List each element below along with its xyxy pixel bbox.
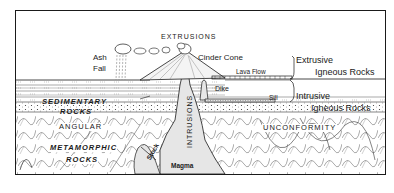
metamorphic-label-1: METAMORPHIC [50,144,117,152]
ash-fall-icon [116,55,126,80]
unconformity-label: UNCONFORMITY [262,124,337,132]
sedimentary-label-2: ROCKS [60,108,92,116]
ash-cloud-icon [115,44,170,54]
lava-flow-label: Lava Flow [236,69,266,76]
eruption-cloud-icon [177,43,191,54]
metamorphic-label-2: ROCKS [66,156,98,164]
sill-label: Sill [269,95,278,102]
ash-fall-label-2: Fall [93,65,106,73]
extrusions-label: EXTRUSIONS [161,33,217,40]
intrusive-label-2: Igneous Rocks [311,104,371,113]
cinder-cone-label: Cinder Cone [198,54,243,62]
magma-label: Magma [171,163,193,170]
sedimentary-label-1: SEDIMENTARY [42,98,107,106]
angular-label: ANGULAR [58,123,103,131]
dike-label: Dike [215,85,229,92]
extrusive-label-1: Extrusive [296,56,333,65]
intrusions-label: INTRUSIONS [186,95,193,148]
extrusive-brace [290,56,294,79]
extrusive-label-2: Igneous Rocks [315,68,375,77]
intrusive-label-1: Intrusive [296,92,330,101]
ash-fall-label-1: Ash [93,54,107,62]
